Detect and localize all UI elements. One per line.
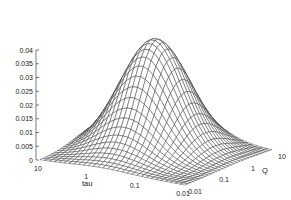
z-axis: 00.0050.010.0150.020.0250.030.0350.04 <box>15 47 39 164</box>
z-tick-label: 0 <box>29 157 33 164</box>
z-tick-label: 0.025 <box>15 88 33 95</box>
q-tick-label: 0.1 <box>219 176 229 183</box>
q-tick-label: 0.01 <box>188 188 202 195</box>
z-tick-label: 0.02 <box>19 102 33 109</box>
z-tick-label: 0.03 <box>19 74 33 81</box>
z-tick-label: 0.04 <box>19 47 33 54</box>
q-tick-label: 10 <box>278 153 286 160</box>
surface-plot: 00.0050.010.0150.020.0250.030.0350.04 10… <box>0 0 291 200</box>
tau-axis-label: tau <box>82 179 92 188</box>
q-axis-label: Q <box>262 166 268 175</box>
z-tick-label: 0.015 <box>15 115 33 122</box>
tau-tick-label: 10 <box>34 165 42 172</box>
surface-mesh <box>40 39 272 185</box>
z-tick-label: 0.005 <box>15 143 33 150</box>
z-tick-label: 0.035 <box>15 60 33 67</box>
z-tick-label: 0.01 <box>19 129 33 136</box>
tau-tick-label: 0.1 <box>130 182 140 189</box>
q-tick-label: 1 <box>251 165 255 172</box>
